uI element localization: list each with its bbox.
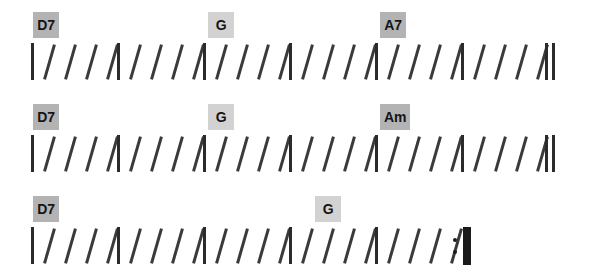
slash-stroke-icon	[43, 228, 56, 263]
beat-slash	[492, 44, 509, 80]
slash-stroke-icon	[215, 136, 228, 171]
beat-slash	[534, 136, 551, 172]
slash-stroke-icon	[387, 228, 400, 263]
barline	[375, 43, 378, 80]
slash-stroke-icon	[64, 136, 77, 171]
slash-stroke-icon	[387, 136, 400, 171]
slash-stroke-icon	[301, 44, 314, 79]
slash-stroke-icon	[343, 136, 356, 171]
beat-slash	[341, 228, 358, 264]
chord-chart: D7GA7D7GAmD7G	[0, 0, 595, 270]
beat-slash	[127, 44, 144, 80]
chord-label: Am	[380, 104, 410, 130]
beat-slash	[234, 44, 251, 80]
beat-slash	[299, 44, 316, 80]
beat-slash	[299, 228, 316, 264]
barline	[375, 135, 378, 172]
slash-stroke-icon	[257, 136, 270, 171]
slash-stroke-icon	[64, 44, 77, 79]
beat-slash	[41, 228, 58, 264]
slash-stroke-icon	[236, 136, 249, 171]
beat-slash	[148, 136, 165, 172]
beat-slash	[513, 44, 530, 80]
slash-stroke-icon	[43, 136, 56, 171]
beat-slash	[406, 44, 423, 80]
slash-stroke-icon	[408, 136, 421, 171]
barline	[289, 135, 292, 172]
slash-stroke-icon	[301, 228, 314, 263]
slash-stroke-icon	[408, 44, 421, 79]
beat-slash	[320, 136, 337, 172]
repeat-dot-icon	[453, 250, 457, 254]
beat-slash	[513, 136, 530, 172]
barline	[117, 43, 120, 80]
beat-slash	[169, 228, 186, 264]
beat-slash	[83, 228, 100, 264]
beat-slash	[213, 228, 230, 264]
barline	[545, 135, 548, 172]
slash-stroke-icon	[150, 228, 163, 263]
beat-slash	[385, 44, 402, 80]
chord-label: G	[208, 12, 234, 38]
beat-slash	[299, 136, 316, 172]
chord-label: G	[208, 104, 234, 130]
repeat-dot-icon	[453, 238, 457, 242]
music-system: D7G	[0, 184, 595, 270]
slash-stroke-icon	[343, 228, 356, 263]
chord-label: D7	[33, 196, 59, 222]
chord-label: D7	[33, 104, 59, 130]
slash-stroke-icon	[429, 136, 442, 171]
barline	[31, 227, 34, 264]
slash-stroke-icon	[429, 44, 442, 79]
barline	[203, 43, 206, 80]
barline	[461, 135, 464, 172]
beat-slash	[83, 44, 100, 80]
beat-slash	[255, 228, 272, 264]
slash-stroke-icon	[387, 44, 400, 79]
slash-stroke-icon	[473, 44, 486, 79]
slash-stroke-icon	[85, 44, 98, 79]
beat-slash	[534, 44, 551, 80]
beat-slash	[169, 136, 186, 172]
beat-slash	[341, 136, 358, 172]
music-system: D7GA7	[0, 0, 595, 90]
thick-barline	[463, 227, 471, 265]
beat-slash	[41, 44, 58, 80]
beat-slash	[385, 136, 402, 172]
slash-stroke-icon	[171, 136, 184, 171]
beat-slash	[169, 44, 186, 80]
slash-stroke-icon	[343, 44, 356, 79]
barline	[289, 227, 292, 264]
beat-slash	[427, 136, 444, 172]
slash-stroke-icon	[85, 136, 98, 171]
beat-slash	[62, 228, 79, 264]
barline	[461, 43, 464, 80]
slash-stroke-icon	[129, 44, 142, 79]
slash-stroke-icon	[43, 44, 56, 79]
barline	[203, 135, 206, 172]
slash-stroke-icon	[85, 228, 98, 263]
beat-slash	[62, 44, 79, 80]
beat-slash	[234, 136, 251, 172]
beat-slash	[492, 136, 509, 172]
slash-stroke-icon	[257, 228, 270, 263]
slash-stroke-icon	[494, 44, 507, 79]
beat-slash	[41, 136, 58, 172]
beat-slash	[255, 136, 272, 172]
slash-stroke-icon	[236, 228, 249, 263]
slash-stroke-icon	[257, 44, 270, 79]
slash-stroke-icon	[171, 44, 184, 79]
beat-slash	[341, 44, 358, 80]
beat-slash	[320, 44, 337, 80]
slash-stroke-icon	[171, 228, 184, 263]
beat-slash	[427, 228, 444, 264]
beat-slash	[213, 136, 230, 172]
slash-stroke-icon	[515, 136, 528, 171]
slash-stroke-icon	[322, 136, 335, 171]
beat-slash	[213, 44, 230, 80]
beat-slash	[83, 136, 100, 172]
chord-label: G	[315, 196, 341, 222]
beat-slash	[471, 136, 488, 172]
slash-stroke-icon	[129, 136, 142, 171]
beat-slash	[427, 44, 444, 80]
